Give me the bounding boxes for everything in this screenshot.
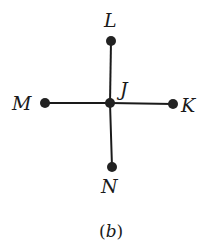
node-label-k: K	[180, 94, 197, 116]
node-n	[107, 162, 117, 172]
edge-j-l	[110, 41, 111, 103]
node-label-l: L	[103, 9, 117, 31]
edge-j-k	[110, 103, 173, 104]
node-label-n: N	[100, 175, 119, 197]
star-graph-diagram: L J M K N (b)	[0, 0, 206, 249]
node-m	[40, 98, 50, 108]
edge-j-n	[110, 103, 112, 167]
node-k	[168, 99, 178, 109]
node-j	[105, 98, 115, 108]
node-label-j: J	[116, 78, 129, 100]
node-label-m: M	[11, 92, 32, 114]
figure-caption: (b)	[99, 221, 123, 241]
node-l	[106, 36, 116, 46]
